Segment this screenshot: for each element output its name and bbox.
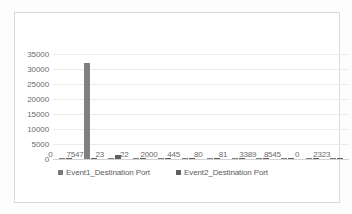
plot-area xyxy=(53,54,349,159)
legend-swatch-icon xyxy=(58,170,63,175)
bar-slot xyxy=(152,54,177,159)
bar-pair xyxy=(176,54,201,159)
bar-pair xyxy=(201,54,226,159)
x-axis-tick-label: 81 xyxy=(211,150,236,159)
screenshot-root: 35000 30000 25000 20000 15000 10000 5000… xyxy=(0,0,352,214)
bar-slot xyxy=(226,54,251,159)
bar-pair xyxy=(127,54,152,159)
y-axis-tick-label: 15000 xyxy=(27,109,49,118)
x-axis-line xyxy=(53,159,349,160)
x-axis-tick-label: 3389 xyxy=(235,150,260,159)
bar-group xyxy=(53,54,349,159)
x-axis-tick-label: 80 xyxy=(186,150,211,159)
x-axis-tick-label: 22 xyxy=(112,150,137,159)
x-axis-tick-label: 23 xyxy=(87,150,112,159)
y-axis-tick-label: 10000 xyxy=(27,124,49,133)
y-axis-tick-label: 20000 xyxy=(27,94,49,103)
legend-item-event1[interactable]: Event1_Destination Port xyxy=(58,168,150,177)
bar-pair xyxy=(152,54,177,159)
x-axis-tick-label: 0 xyxy=(38,150,63,159)
bar-pair xyxy=(250,54,275,159)
bar-pair xyxy=(226,54,251,159)
y-axis-tick-label: 35000 xyxy=(27,50,49,59)
bar[interactable] xyxy=(337,158,343,159)
x-axis-tick-label: 445 xyxy=(161,150,186,159)
bar-slot xyxy=(102,54,127,159)
y-axis-tick-label: 30000 xyxy=(27,64,49,73)
bar-pair xyxy=(324,54,349,159)
bar-pair xyxy=(300,54,325,159)
chart-legend: Event1_Destination Port Event2_Destinati… xyxy=(14,168,312,177)
bar-pair xyxy=(275,54,300,159)
legend-item-event2[interactable]: Event2_Destination Port xyxy=(176,168,268,177)
bar-slot xyxy=(324,54,349,159)
x-axis-tick-label: 8545 xyxy=(260,150,285,159)
bar-pair xyxy=(53,54,78,159)
bar-slot xyxy=(127,54,152,159)
x-axis-tick-label: 7547 xyxy=(63,150,88,159)
y-axis: 35000 30000 25000 20000 15000 10000 5000… xyxy=(15,54,51,159)
bar-pair xyxy=(102,54,127,159)
legend-label: Event1_Destination Port xyxy=(66,168,150,177)
bar-slot xyxy=(53,54,78,159)
legend-label: Event2_Destination Port xyxy=(184,168,268,177)
bar-slot xyxy=(300,54,325,159)
bar-pair xyxy=(78,54,103,159)
x-axis-tick-label: 2323 xyxy=(309,150,334,159)
bar-slot xyxy=(250,54,275,159)
bar-slot xyxy=(78,54,103,159)
bar-slot xyxy=(176,54,201,159)
bar-slot xyxy=(275,54,300,159)
legend-swatch-icon xyxy=(176,170,181,175)
y-axis-tick-label: 5000 xyxy=(32,139,49,148)
x-axis: 075472322200044580813389854502323 xyxy=(38,150,334,159)
x-axis-tick-label: 2000 xyxy=(137,150,162,159)
y-axis-tick-label: 25000 xyxy=(27,79,49,88)
x-axis-tick-label: 0 xyxy=(285,150,310,159)
bar[interactable] xyxy=(84,63,90,159)
bar-slot xyxy=(201,54,226,159)
